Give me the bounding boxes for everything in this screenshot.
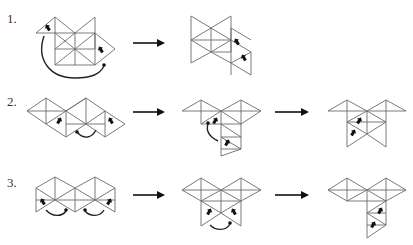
triangle-edge [75, 33, 95, 49]
triangle-edge [328, 190, 347, 201]
triangle-edge [347, 100, 367, 111]
triangle-edge [211, 52, 231, 63]
triangle-edge [241, 100, 261, 111]
triangle-edge [182, 178, 201, 190]
triangle-edge [46, 111, 66, 124]
triangle-edge [27, 98, 46, 111]
triangle-edge [241, 178, 261, 190]
triangle-edge [95, 188, 115, 200]
row2-net-start [27, 98, 125, 137]
triangle-edge [191, 52, 211, 63]
row2-net-result [328, 100, 406, 147]
triangle-edge [191, 28, 211, 40]
triangle-edge [367, 178, 386, 190]
triangle-edge [191, 16, 211, 28]
triangle-edge [221, 178, 241, 190]
triangle-edge [367, 190, 386, 201]
row1-net-start [36, 17, 115, 78]
fold-arrowhead-icon [83, 208, 87, 212]
triangle-edge [386, 178, 406, 190]
triangle-edge [36, 17, 55, 33]
triangle-edge [36, 200, 55, 212]
triangle-edge [46, 124, 66, 137]
triangle-edge [221, 111, 241, 124]
fold-direction-arrow [85, 210, 104, 215]
triangle-edge [201, 100, 221, 111]
triangle-edge [66, 124, 86, 137]
triangle-edge [328, 178, 347, 190]
triangle-edge [55, 188, 75, 200]
triangle-edge [75, 17, 95, 33]
triangle-edge [386, 100, 406, 111]
face-mark-icon [43, 23, 52, 32]
fold-direction-arrow [77, 130, 96, 137]
triangle-edge [201, 213, 221, 226]
triangle-edge [221, 190, 241, 201]
triangle-edge [367, 122, 386, 134]
triangle-edge [36, 188, 55, 200]
triangle-edge [347, 190, 367, 201]
triangle-edge [66, 98, 86, 111]
triangle-edge [328, 100, 347, 111]
triangle-edge [241, 190, 261, 201]
triangle-edge [75, 177, 95, 188]
triangle-edge [66, 111, 86, 124]
triangle-edge [231, 52, 251, 63]
triangle-edge [182, 100, 201, 111]
triangle-edge [55, 49, 75, 65]
triangle-edge [347, 178, 367, 190]
triangle-edge [367, 100, 386, 111]
triangle-edge [347, 134, 367, 147]
fold-direction-arrow [46, 210, 66, 215]
triangle-edge [367, 201, 386, 213]
triangle-edge [367, 225, 386, 238]
fold-arrowhead-icon [228, 221, 232, 225]
face-mark-icon [105, 197, 114, 206]
row3-net-result [328, 178, 406, 238]
triangle-edge [367, 111, 386, 122]
triangle-edge [211, 16, 231, 28]
triangle-edge [367, 213, 386, 225]
triangle-edge [386, 190, 406, 201]
triangle-edge [221, 149, 241, 156]
row2-net-middle [182, 100, 261, 156]
triangle-edge [221, 100, 241, 111]
triangle-edge [231, 40, 251, 52]
diagram-canvas [0, 0, 413, 245]
triangle-edge [221, 201, 241, 213]
triangle-edge [191, 40, 211, 52]
triangle-edge [46, 98, 66, 111]
row3-net-middle [182, 178, 261, 229]
triangle-edge [231, 63, 251, 75]
triangle-edge [105, 124, 125, 137]
row3-net-start [36, 177, 115, 215]
folding-diagram: 1. 2. 3. [0, 0, 413, 245]
triangle-edge [105, 111, 125, 124]
triangle-edge [36, 177, 55, 188]
face-mark-icon [96, 45, 105, 54]
triangle-edge [86, 111, 105, 124]
face-mark-icon [376, 206, 385, 215]
triangle-edge [231, 28, 251, 40]
triangle-edge [75, 188, 95, 200]
face-mark-icon [38, 197, 47, 206]
face-mark-icon [229, 207, 238, 216]
fold-direction-arrow [210, 224, 230, 229]
triangle-edge [241, 111, 261, 124]
face-mark-icon [205, 207, 214, 216]
triangle-edge [211, 28, 231, 40]
fold-arrowhead-icon [64, 208, 68, 212]
triangle-edge [86, 98, 105, 111]
triangle-edge [27, 111, 46, 124]
triangle-edge [95, 200, 115, 212]
face-mark-icon [106, 116, 115, 125]
triangle-edge [211, 40, 231, 52]
triangle-edge [201, 190, 221, 201]
triangle-edge [55, 17, 75, 33]
fold-direction-arrow [207, 124, 218, 141]
triangle-edge [95, 177, 115, 188]
fold-arrowhead-icon [206, 121, 210, 125]
triangle-edge [55, 177, 75, 188]
triangle-edge [95, 49, 115, 65]
fold-arrowhead-icon [102, 63, 106, 67]
